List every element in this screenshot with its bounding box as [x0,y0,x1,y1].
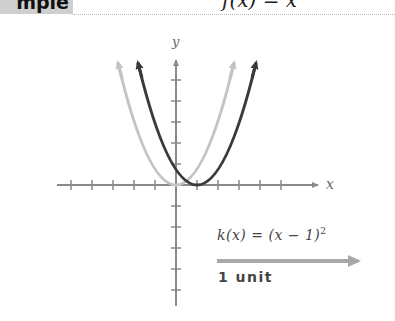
shifted-function-equation: k(x) = (x − 1)2 [217,226,327,243]
parabola-graph [0,0,395,321]
equation-text: k(x) = (x − 1) [217,227,320,243]
y-axis-label: y [172,34,179,49]
shift-amount-label: 1 unit [218,269,273,285]
equation-exponent: 2 [320,226,326,236]
x-axis-label: x [326,176,334,192]
y-axis [171,60,181,306]
